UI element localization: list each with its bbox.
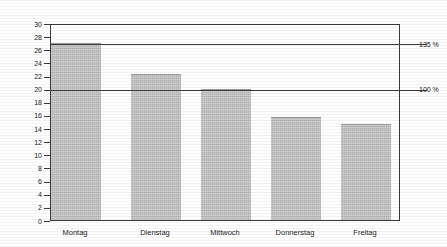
reference-line-label: 135 %: [419, 41, 439, 48]
y-axis-tick: [44, 221, 50, 222]
y-axis-tick-label: 6: [18, 178, 42, 185]
plot-inner: [51, 25, 399, 220]
y-axis-tick-label: 18: [18, 99, 42, 106]
x-axis-category-label: Freitag: [325, 229, 405, 237]
y-axis-tick-label: 22: [18, 73, 42, 80]
bar: [51, 43, 101, 220]
y-axis-tick-label: 24: [18, 60, 42, 67]
bar-chart: Volumenanteil [%] 0246810121416182022242…: [0, 0, 447, 247]
y-axis-tick-label: 20: [18, 86, 42, 93]
reference-line-label: 100 %: [419, 86, 439, 93]
y-axis-tick-label: 12: [18, 139, 42, 146]
x-axis-category-label: Dienstag: [115, 229, 195, 237]
x-axis-category-label: Montag: [35, 229, 115, 237]
y-axis-tick-label: 4: [18, 191, 42, 198]
bar: [341, 124, 391, 220]
y-axis-tick-label: 28: [18, 34, 42, 41]
plot-area: [50, 24, 400, 221]
y-axis-tick-label: 2: [18, 204, 42, 211]
y-axis-tick-label: 8: [18, 165, 42, 172]
x-axis-category-label: Donnerstag: [255, 229, 335, 237]
y-axis-tick-label: 10: [18, 152, 42, 159]
bar: [201, 89, 251, 220]
y-axis-tick-label: 26: [18, 47, 42, 54]
y-axis-tick-label: 14: [18, 126, 42, 133]
reference-line: [50, 44, 427, 45]
bar: [271, 117, 321, 220]
y-axis-tick-label: 0: [18, 218, 42, 225]
reference-line: [50, 90, 427, 91]
bar: [131, 74, 181, 220]
y-axis-tick-label: 30: [18, 21, 42, 28]
y-axis-tick-label: 16: [18, 112, 42, 119]
x-axis-category-label: Mittwoch: [185, 229, 265, 237]
